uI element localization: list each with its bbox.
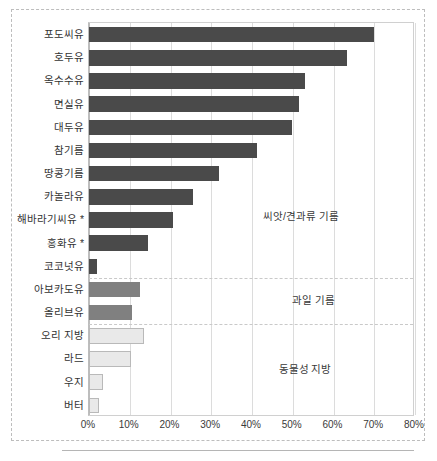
chart-row: 대두유 <box>89 116 413 139</box>
group-separator <box>89 278 413 279</box>
category-label: 해바라기씨유 * <box>0 208 84 231</box>
plot-area: 포도씨유호두유옥수수유면실유대두유참기름땅콩기름카놀라유해바라기씨유 *홍화유 … <box>88 22 414 416</box>
bar <box>89 166 219 182</box>
chart-row: 코코넛유 <box>89 255 413 278</box>
figure-bottom-rule <box>62 450 414 451</box>
chart-row: 호두유 <box>89 46 413 69</box>
group-separator <box>89 324 413 325</box>
category-label: 호두유 <box>0 46 84 69</box>
chart-row: 버터 <box>89 394 413 417</box>
chart-figure: 포도씨유호두유옥수수유면실유대두유참기름땅콩기름카놀라유해바라기씨유 *홍화유 … <box>0 0 437 461</box>
chart-row: 포도씨유 <box>89 23 413 46</box>
chart-row: 해바라기씨유 * <box>89 208 413 231</box>
chart-row: 아보카도유 <box>89 278 413 301</box>
bar <box>89 374 103 390</box>
category-label: 참기름 <box>0 139 84 162</box>
category-label: 카놀라유 <box>0 185 84 208</box>
gridline <box>415 23 416 415</box>
bar <box>89 351 131 367</box>
category-label: 옥수수유 <box>0 69 84 92</box>
category-label: 버터 <box>0 394 84 417</box>
bar <box>89 96 299 112</box>
category-label: 오리 지방 <box>0 324 84 347</box>
chart-row: 면실유 <box>89 93 413 116</box>
category-label: 홍화유 * <box>0 232 84 255</box>
bar <box>89 73 305 89</box>
category-label: 올리브유 <box>0 301 84 324</box>
group-annotation: 과일 기름 <box>292 292 335 307</box>
bar <box>89 50 347 66</box>
bar <box>89 259 97 275</box>
category-label: 라드 <box>0 347 84 370</box>
chart-row: 카놀라유 <box>89 185 413 208</box>
bar <box>89 143 257 159</box>
bar <box>89 120 292 136</box>
bar <box>89 235 148 251</box>
chart-row: 라드 <box>89 347 413 370</box>
chart-row: 우지 <box>89 371 413 394</box>
bar <box>89 398 99 414</box>
group-annotation: 씨앗/견과류 기름 <box>263 208 339 223</box>
chart-row: 홍화유 * <box>89 232 413 255</box>
chart-row: 오리 지방 <box>89 324 413 347</box>
chart-row: 땅콩기름 <box>89 162 413 185</box>
group-annotation: 동물성 지방 <box>279 361 332 376</box>
bar <box>89 305 132 321</box>
category-label: 코코넛유 <box>0 255 84 278</box>
category-label: 땅콩기름 <box>0 162 84 185</box>
category-label: 대두유 <box>0 116 84 139</box>
chart-row: 올리브유 <box>89 301 413 324</box>
category-label: 면실유 <box>0 93 84 116</box>
bar <box>89 328 144 344</box>
bar <box>89 189 193 205</box>
chart-row: 참기름 <box>89 139 413 162</box>
bar <box>89 212 173 228</box>
category-label: 아보카도유 <box>0 278 84 301</box>
chart-row: 옥수수유 <box>89 69 413 92</box>
bar <box>89 27 374 43</box>
bar <box>89 282 140 298</box>
category-label: 우지 <box>0 371 84 394</box>
category-label: 포도씨유 <box>0 23 84 46</box>
